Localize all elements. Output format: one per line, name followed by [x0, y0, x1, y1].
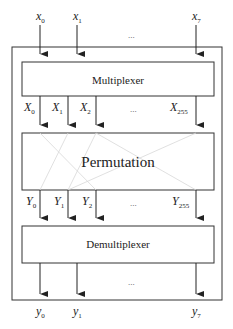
mux-label-X0: X0: [23, 100, 35, 116]
perm-label-Y1: Y1: [54, 194, 65, 210]
perm-label-Y2: Y2: [82, 194, 93, 210]
input-label-x1: x1: [72, 9, 82, 25]
mux-label-X255: X255: [169, 100, 188, 116]
demultiplexer-label: Demultiplexer: [86, 238, 150, 250]
permutation-label: Permutation: [81, 154, 155, 170]
input-label-x7: x7: [191, 9, 201, 25]
outputs-ellipsis: ...: [128, 277, 135, 287]
output-label-y0: y0: [35, 304, 45, 320]
mux-label-X2: X2: [79, 100, 91, 116]
multiplexer-label: Multiplexer: [92, 74, 144, 86]
permutation-network-diagram: x0 x1 x7 ... Multiplexer X0 X1 X2 ... X2…: [0, 0, 233, 329]
output-label-y1: y1: [72, 304, 82, 320]
mux-outputs-ellipsis: ...: [130, 104, 137, 114]
output-label-y7: y7: [191, 304, 201, 320]
perm-label-Y0: Y0: [26, 194, 37, 210]
input-label-x0: x0: [35, 9, 45, 25]
perm-outputs-ellipsis: ...: [130, 198, 137, 208]
mux-label-X1: X1: [51, 100, 63, 116]
perm-label-Y255: Y255: [172, 194, 190, 210]
inputs-ellipsis: ...: [128, 30, 135, 40]
